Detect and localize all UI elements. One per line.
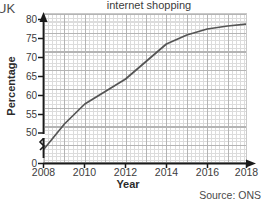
x-tick-2008: 2008 <box>27 166 61 178</box>
x-tick-2016: 2016 <box>191 166 225 178</box>
plot-area <box>43 13 247 163</box>
x-axis-title: Year <box>88 178 168 190</box>
x-tick-2014: 2014 <box>150 166 184 178</box>
x-tick-2018: 2018 <box>230 166 263 178</box>
chart-figure: UK internet shopping <box>0 0 262 202</box>
y-tick-80: 80 <box>13 14 37 25</box>
y-tick-75: 75 <box>13 33 37 44</box>
chart-title: internet shopping <box>84 0 214 11</box>
y-axis-title: Percentage <box>5 44 17 128</box>
y-tick-50: 50 <box>13 127 37 138</box>
data-series-line <box>44 14 247 163</box>
source-note: Source: ONS <box>199 189 261 201</box>
x-tick-2012: 2012 <box>109 166 143 178</box>
x-tick-2010: 2010 <box>68 166 102 178</box>
